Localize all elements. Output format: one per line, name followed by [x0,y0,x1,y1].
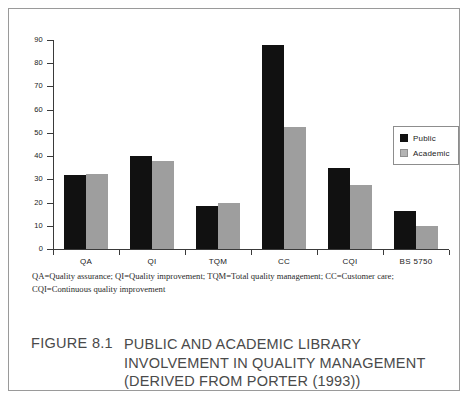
bar-qa-public [64,175,86,249]
bar-cc-academic [284,127,306,249]
y-axis-tick [47,156,53,157]
y-axis-tick-label-text: 90 [13,36,43,44]
caption-line-3: (DERIVED FROM PORTER (1993)) [124,372,426,391]
x-axis-label-qa: QA [53,257,119,266]
bar-cqi-academic [350,185,372,249]
legend-swatch-public-icon [400,134,408,142]
bar-bs-5750-public [394,211,416,249]
caption-line-1: PUBLIC AND ACADEMIC LIBRARY [124,335,426,354]
y-axis-tick [47,110,53,111]
x-axis-tick [53,250,54,255]
y-axis-tick-label-text: 0 [13,245,43,253]
y-axis-line [53,40,54,250]
figure-frame: 0102030405060708090 QAQITQMCCCQIBS 5750 … [8,8,460,391]
x-axis-label-qi: QI [119,257,185,266]
y-axis-tick [47,40,53,41]
y-axis-tick-label: 10 [9,222,43,230]
legend-entry-public: Public [400,132,436,144]
y-axis-tick-label: 60 [9,106,43,114]
bar-qa-academic [86,174,108,249]
y-axis-tick-label-text: 10 [13,222,43,230]
x-axis-label-cc: CC [251,257,317,266]
bar-qi-academic [152,161,174,249]
bar-bs-5750-academic [416,226,438,249]
y-axis-tick-label: 50 [9,129,43,137]
y-axis-tick-label-text: 30 [13,175,43,183]
x-axis-tick [251,250,252,255]
figure-footnote: QA=Quality assurance; QI=Quality improve… [32,270,452,295]
y-axis-tick-label: 40 [9,152,43,160]
legend-label-public: Public [413,134,436,143]
figure-caption: FIGURE 8.1 PUBLIC AND ACADEMIC LIBRARY I… [31,335,451,391]
y-axis-tick-label-text: 60 [13,106,43,114]
bar-cc-public [262,45,284,249]
caption-line-2: INVOLVEMENT IN QUALITY MANAGEMENT [124,354,426,373]
x-axis-label-bs-5750: BS 5750 [383,257,449,266]
legend-swatch-academic-icon [400,149,408,157]
bar-chart: 0102030405060708090 QAQITQMCCCQIBS 5750 … [9,9,461,259]
x-axis-tick [185,250,186,255]
y-axis-tick-label: 30 [9,175,43,183]
bar-qi-public [130,156,152,249]
x-axis-tick [119,250,120,255]
x-axis-tick [449,250,450,255]
legend-entry-academic: Academic [400,147,450,159]
y-axis-tick-label: 20 [9,199,43,207]
y-axis-tick [47,86,53,87]
figure-caption-text: PUBLIC AND ACADEMIC LIBRARY INVOLVEMENT … [124,335,426,391]
y-axis-tick [47,226,53,227]
y-axis-tick-label: 90 [9,36,43,44]
y-axis-tick-label: 0 [9,245,43,253]
footnote-line-1: QA=Quality assurance; QI=Quality improve… [32,270,452,283]
y-axis-tick-label-text: 50 [13,129,43,137]
y-axis-tick [47,133,53,134]
y-axis-tick [47,179,53,180]
bar-cqi-public [328,168,350,249]
legend-label-academic: Academic [413,149,450,158]
y-axis-tick-label-text: 20 [13,199,43,207]
x-axis-tick [383,250,384,255]
y-axis-tick [47,63,53,64]
y-axis-tick-label: 80 [9,59,43,67]
y-axis-tick-label-text: 40 [13,152,43,160]
x-axis-label-tqm: TQM [185,257,251,266]
y-axis-tick-label: 70 [9,82,43,90]
x-axis-tick [317,250,318,255]
y-axis-tick-label-text: 70 [13,82,43,90]
x-axis-label-cqi: CQI [317,257,383,266]
y-axis-tick [47,203,53,204]
y-axis-tick-label-text: 80 [13,59,43,67]
chart-legend: Public Academic [393,126,459,165]
bar-tqm-academic [218,203,240,249]
bar-tqm-public [196,206,218,249]
footnote-line-2: CQI=Continuous quality improvement [32,283,452,296]
figure-caption-number: FIGURE 8.1 [31,335,124,351]
